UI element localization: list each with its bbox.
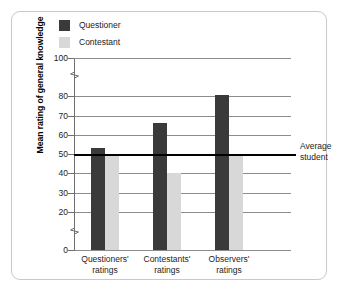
bar-questioner-observers-ratings xyxy=(215,95,229,250)
bar-contestant-observers-ratings xyxy=(229,156,243,250)
bars-layer xyxy=(12,12,326,279)
axis-break-lower xyxy=(69,224,80,238)
axis-break-upper xyxy=(69,68,80,82)
average-student-line xyxy=(74,154,296,156)
chart-frame: Questioner Contestant Mean rating of gen… xyxy=(11,11,327,280)
bar-questioner-questioners-ratings xyxy=(91,148,105,250)
bar-questioner-contestants-ratings xyxy=(153,123,167,250)
plot-area: Mean rating of general knowledge 100 80 … xyxy=(12,12,326,279)
bar-contestant-questioners-ratings xyxy=(105,154,119,250)
bar-contestant-contestants-ratings xyxy=(167,173,181,250)
